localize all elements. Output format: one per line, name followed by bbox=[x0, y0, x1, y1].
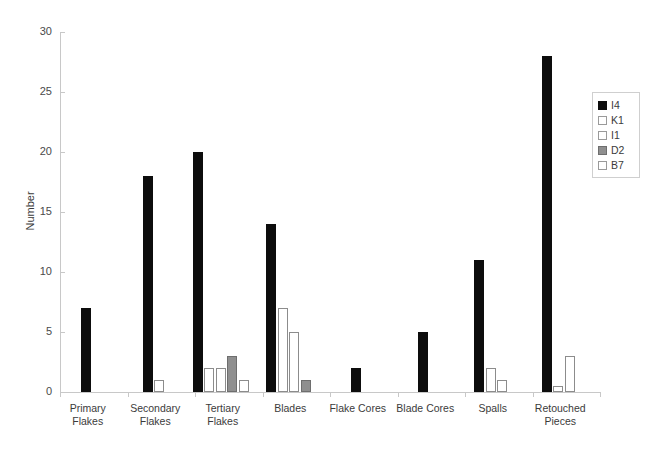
legend-label: I1 bbox=[611, 130, 620, 141]
x-tick-mark bbox=[128, 392, 129, 397]
legend-item: B7 bbox=[598, 158, 635, 172]
x-axis-category-label: Blade Cores bbox=[392, 402, 460, 415]
x-tick-mark bbox=[533, 392, 534, 397]
bar bbox=[216, 368, 226, 392]
bar bbox=[542, 56, 552, 392]
bar bbox=[565, 356, 575, 392]
y-tick-label: 0 bbox=[22, 386, 52, 397]
y-tick-label: 20 bbox=[22, 146, 52, 157]
x-tick-mark bbox=[600, 392, 601, 397]
legend-item: I4 bbox=[598, 98, 635, 112]
x-axis-category-label: Flake Cores bbox=[324, 402, 392, 415]
bar-chart: 051015202530 Number PrimaryFlakesSeconda… bbox=[0, 0, 659, 449]
x-tick-mark bbox=[330, 392, 331, 397]
y-tick-label: 30 bbox=[22, 26, 52, 37]
bar bbox=[143, 176, 153, 392]
x-axis-category-label: Spalls bbox=[459, 402, 527, 415]
x-tick-mark bbox=[465, 392, 466, 397]
legend-label: I4 bbox=[611, 100, 620, 111]
plot-area bbox=[60, 32, 600, 392]
y-tick-label: 10 bbox=[22, 266, 52, 277]
y-tick-label: 25 bbox=[22, 86, 52, 97]
bar bbox=[278, 308, 288, 392]
legend-label: B7 bbox=[611, 160, 624, 171]
x-axis-category-label: RetouchedPieces bbox=[527, 402, 595, 428]
x-axis-category-label: Blades bbox=[257, 402, 325, 415]
legend-swatch-icon bbox=[598, 116, 607, 125]
legend-label: D2 bbox=[611, 145, 624, 156]
bar bbox=[351, 368, 361, 392]
legend-item: D2 bbox=[598, 143, 635, 157]
legend-item: K1 bbox=[598, 113, 635, 127]
x-tick-mark bbox=[398, 392, 399, 397]
x-tick-mark bbox=[195, 392, 196, 397]
bar bbox=[81, 308, 91, 392]
legend-swatch-icon bbox=[598, 131, 607, 140]
bar bbox=[154, 380, 164, 392]
x-axis-category-label: TertiaryFlakes bbox=[189, 402, 257, 428]
y-axis-title: Number bbox=[24, 171, 36, 251]
y-tick-label: 5 bbox=[22, 326, 52, 337]
bar bbox=[301, 380, 311, 392]
bar bbox=[474, 260, 484, 392]
x-axis-category-label: PrimaryFlakes bbox=[54, 402, 122, 428]
bar bbox=[193, 152, 203, 392]
bar bbox=[486, 368, 496, 392]
legend-label: K1 bbox=[611, 115, 624, 126]
x-axis-category-label: SecondaryFlakes bbox=[122, 402, 190, 428]
x-tick-mark bbox=[263, 392, 264, 397]
bar bbox=[266, 224, 276, 392]
bar bbox=[289, 332, 299, 392]
legend: I4K1I1D2B7 bbox=[592, 92, 640, 178]
legend-swatch-icon bbox=[598, 146, 607, 155]
bar bbox=[239, 380, 249, 392]
bar bbox=[204, 368, 214, 392]
bar bbox=[227, 356, 237, 392]
bar bbox=[497, 380, 507, 392]
legend-swatch-icon bbox=[598, 161, 607, 170]
bar bbox=[418, 332, 428, 392]
legend-swatch-icon bbox=[598, 101, 607, 110]
legend-item: I1 bbox=[598, 128, 635, 142]
x-tick-mark bbox=[60, 392, 61, 397]
